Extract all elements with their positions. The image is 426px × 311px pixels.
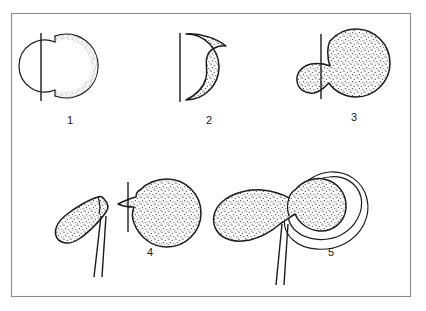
figure-canvas: 1 2 3 4 xyxy=(0,0,426,311)
panel-3-label: 3 xyxy=(351,111,357,123)
figure-root: 1 2 3 4 xyxy=(0,0,426,311)
panel-2-label: 2 xyxy=(206,114,212,126)
panel-4-label: 4 xyxy=(147,246,153,258)
panel-5-label: 5 xyxy=(328,246,334,258)
panel-1-label: 1 xyxy=(67,114,73,126)
